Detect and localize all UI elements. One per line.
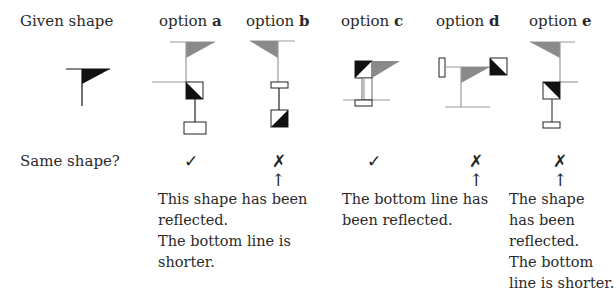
note-option-b: This shape has been reflected. The botto… (158, 189, 307, 273)
same-shape-label: Same shape? (20, 152, 120, 170)
arrow-up-icon-e: ↑ (553, 171, 567, 189)
cross-icon-e: ✗ (553, 152, 567, 170)
cross-icon-d: ✗ (469, 152, 483, 170)
note-option-e: The shape has been reflected. The bottom… (509, 189, 614, 294)
option-c-shape (343, 61, 400, 106)
cross-icon-b: ✗ (272, 152, 286, 170)
option-d-shape (439, 58, 507, 107)
check-icon-c: ✓ (367, 152, 381, 170)
option-a-shape (152, 42, 215, 134)
option-b-shape (250, 41, 295, 127)
option-e-shape (530, 42, 578, 128)
note-option-d: The bottom line has been reflected. (342, 189, 488, 231)
check-icon-a: ✓ (184, 152, 198, 170)
arrow-up-icon-b: ↑ (271, 171, 285, 189)
given-shape (66, 69, 110, 106)
arrow-up-icon-d: ↑ (469, 171, 483, 189)
